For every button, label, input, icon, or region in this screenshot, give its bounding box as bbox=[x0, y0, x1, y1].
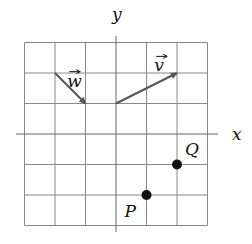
coordinate-diagram: y x wv QP bbox=[0, 0, 252, 244]
point-label: P bbox=[124, 201, 137, 221]
axes bbox=[16, 36, 218, 232]
vector-label: w bbox=[67, 71, 82, 91]
points: QP bbox=[124, 139, 200, 222]
point-marker bbox=[142, 190, 152, 200]
vector-w: w bbox=[55, 70, 86, 104]
x-axis-label: x bbox=[232, 124, 242, 144]
point-marker bbox=[172, 160, 182, 170]
vector-label: v bbox=[154, 55, 164, 75]
point-label: Q bbox=[185, 139, 199, 159]
y-axis-label: y bbox=[111, 4, 122, 24]
